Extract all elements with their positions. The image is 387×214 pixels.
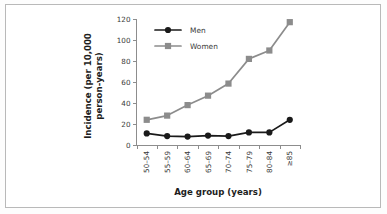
legend-label-women: Women xyxy=(190,42,218,51)
x-tick-label: 80–84 xyxy=(265,151,274,173)
chart-legend: Men Women xyxy=(155,26,218,51)
data-point-men xyxy=(225,133,231,139)
data-point-men xyxy=(246,129,252,135)
y-axis-title-line1: Incidence (per 10,000 xyxy=(83,33,93,139)
legend-entry-men: Men xyxy=(155,26,206,35)
x-tick-label: 70–74 xyxy=(224,151,233,173)
y-tick-label: 60 xyxy=(121,78,131,87)
y-axis-ticks: 020406080100120 xyxy=(117,15,137,150)
data-point-women xyxy=(225,80,231,86)
y-tick-label: 20 xyxy=(121,120,131,129)
data-point-women xyxy=(164,113,170,119)
y-tick-label: 80 xyxy=(121,57,131,66)
data-point-women xyxy=(205,93,211,99)
x-tick-label: 75–79 xyxy=(245,151,254,173)
data-point-men xyxy=(266,129,272,135)
legend-marker-women xyxy=(165,43,171,49)
legend-label-men: Men xyxy=(190,26,206,35)
data-point-women xyxy=(144,117,150,123)
chart-plot-area: 020406080100120 50–5455–5960–6465–6970–7… xyxy=(0,0,387,214)
x-axis-tick-labels: 50–5455–5960–6465–6970–7475–7980–84≥85 xyxy=(142,151,294,173)
y-axis-title: Incidence (per 10,000 person-years) xyxy=(83,33,104,139)
data-point-women xyxy=(246,56,252,62)
x-tick-label: 65–69 xyxy=(204,151,213,173)
data-point-women xyxy=(266,47,272,53)
x-tick-label: 55–59 xyxy=(163,151,172,173)
figure-container: 020406080100120 50–5455–5960–6465–6970–7… xyxy=(0,0,387,214)
x-tick-label: ≥85 xyxy=(285,151,294,166)
data-point-women xyxy=(184,102,190,108)
data-point-men xyxy=(144,130,150,136)
data-point-women xyxy=(287,19,293,25)
data-point-men xyxy=(205,132,211,138)
data-series-layer xyxy=(144,19,293,140)
y-tick-label: 120 xyxy=(117,15,131,24)
incidence-by-age-line-chart: 020406080100120 50–5455–5960–6465–6970–7… xyxy=(0,0,387,214)
y-tick-label: 100 xyxy=(117,36,131,45)
y-tick-label: 0 xyxy=(126,141,131,150)
series-line-women xyxy=(147,22,290,120)
legend-marker-men xyxy=(165,27,171,33)
x-axis-title: Age group (years) xyxy=(174,187,262,197)
x-tick-label: 60–64 xyxy=(183,151,192,173)
data-point-men xyxy=(287,117,293,123)
y-tick-label: 40 xyxy=(121,99,131,108)
data-point-men xyxy=(184,134,190,140)
data-point-men xyxy=(164,133,170,139)
x-tick-label: 50–54 xyxy=(142,151,151,173)
legend-entry-women: Women xyxy=(155,42,218,51)
y-axis-title-line2: person-years) xyxy=(94,52,104,120)
